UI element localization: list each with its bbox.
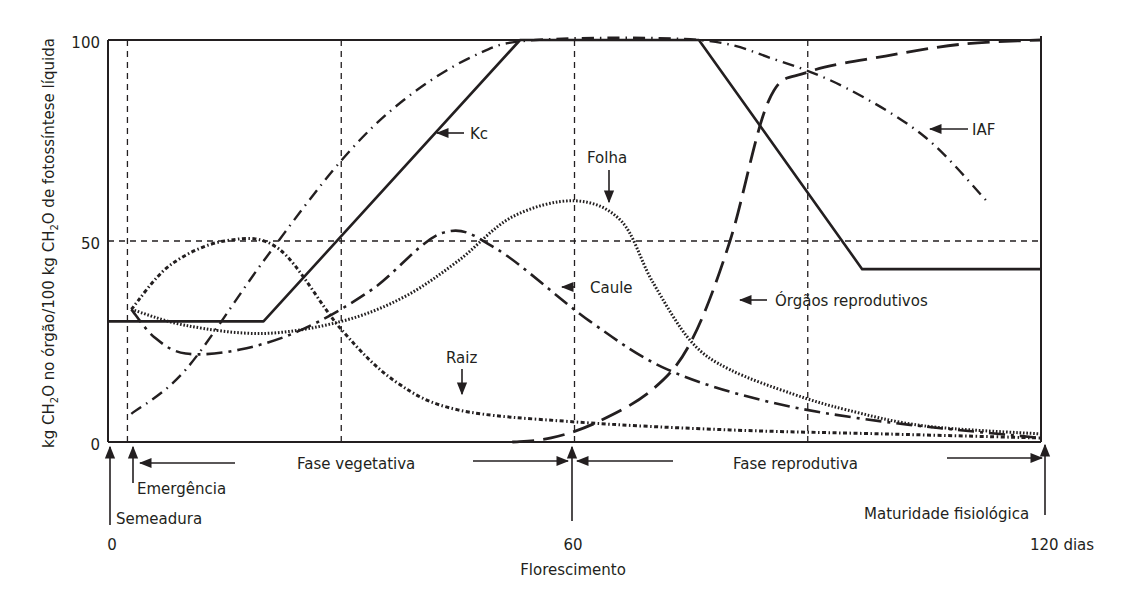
- svg-text:Semeadura: Semeadura: [116, 510, 202, 528]
- event-florescimento: 60 Florescimento: [520, 447, 626, 579]
- svg-text:60: 60: [563, 536, 582, 554]
- reference-lines: [108, 40, 1041, 442]
- crop-development-chart: 100 50 0 kg CH2O no órgão/100 kg CH2O de…: [0, 0, 1133, 598]
- svg-text:120 dias: 120 dias: [1030, 536, 1094, 554]
- svg-text:Maturidade fisiológica: Maturidade fisiológica: [864, 505, 1029, 523]
- svg-text:Florescimento: Florescimento: [520, 561, 626, 579]
- label-folha: Folha: [587, 149, 627, 202]
- series-caule: [131, 231, 1041, 438]
- y-tick-0: 0: [90, 436, 100, 454]
- svg-text:Caule: Caule: [590, 279, 633, 297]
- event-emergencia: Emergência: [133, 447, 226, 498]
- label-kc: Kc: [437, 125, 488, 143]
- y-axis-label: kg CH2O no órgão/100 kg CH2O de fotossín…: [40, 38, 60, 448]
- label-iaf: IAF: [930, 121, 995, 139]
- series--rg-os-reprodutivos: [512, 40, 1041, 442]
- svg-text:Emergência: Emergência: [137, 480, 226, 498]
- svg-text:Kc: Kc: [470, 125, 488, 143]
- x-tick-0: 0: [107, 536, 117, 554]
- svg-text:Fase vegetativa: Fase vegetativa: [297, 455, 415, 473]
- svg-text:Fase reprodutiva: Fase reprodutiva: [733, 455, 858, 473]
- svg-text:Raiz: Raiz: [446, 349, 477, 367]
- label-orgaos-reprodutivos: Órgãos reprodutivos: [740, 291, 928, 310]
- y-tick-50: 50: [81, 235, 100, 253]
- series-iaf: [131, 38, 986, 414]
- y-tick-100: 100: [71, 34, 100, 52]
- label-raiz: Raiz: [446, 349, 477, 394]
- svg-text:Órgãos reprodutivos: Órgãos reprodutivos: [775, 291, 928, 310]
- svg-text:Folha: Folha: [587, 149, 627, 167]
- event-maturidade: Maturidade fisiológica 120 dias: [864, 445, 1094, 554]
- phase-vegetativa: Fase vegetativa: [140, 455, 568, 473]
- series-kc: [108, 40, 1041, 321]
- label-caule: Caule: [562, 279, 633, 297]
- svg-text:IAF: IAF: [972, 121, 995, 139]
- phase-reprodutiva: Fase reprodutiva: [577, 455, 1042, 473]
